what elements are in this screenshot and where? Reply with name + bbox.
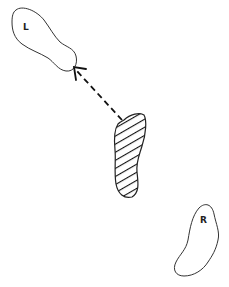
arrow-shaft — [76, 70, 122, 120]
left-foot-label: L — [23, 22, 29, 32]
direction-arrow — [74, 67, 122, 120]
footprint-diagram: L R — [0, 0, 229, 287]
right-foot-label: R — [200, 215, 207, 225]
left-foot-outline — [12, 8, 77, 71]
current-foot — [114, 114, 145, 198]
right-foot-outline — [174, 205, 218, 276]
right-foot: R — [174, 205, 218, 276]
current-foot-hatched — [114, 114, 145, 198]
left-foot: L — [12, 8, 77, 71]
